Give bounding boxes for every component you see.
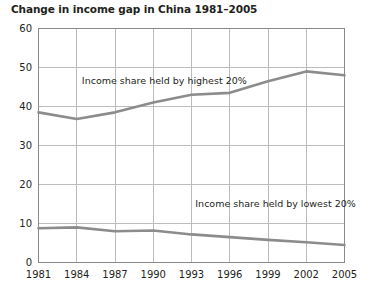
x-axis-tick-label: 1984 <box>57 270 97 280</box>
x-axis-tick-label: 1990 <box>133 270 173 280</box>
y-axis-tick-label: 40 <box>2 102 32 112</box>
series-annotation-label: Income share held by highest 20% <box>82 75 247 86</box>
y-axis-tick-label: 0 <box>2 258 32 268</box>
x-axis-tick-label: 2002 <box>286 270 326 280</box>
x-axis-tick-label: 2005 <box>325 270 365 280</box>
y-axis-tick-label: 30 <box>2 141 32 151</box>
x-axis-tick-label: 1993 <box>172 270 212 280</box>
chart-plot-area <box>0 0 370 293</box>
chart-container: Change in income gap in China 1981–2005 … <box>0 0 370 293</box>
y-axis-tick-label: 10 <box>2 219 32 229</box>
x-axis-tick-label: 1981 <box>19 270 59 280</box>
x-axis-tick-label: 1996 <box>210 270 250 280</box>
x-axis-tick-label: 1999 <box>248 270 288 280</box>
y-axis-tick-label: 60 <box>2 24 32 34</box>
series-annotation-label: Income share held by lowest 20% <box>195 198 355 209</box>
x-axis-tick-label: 1987 <box>95 270 135 280</box>
y-axis-tick-label: 50 <box>2 63 32 73</box>
y-axis-tick-label: 20 <box>2 180 32 190</box>
